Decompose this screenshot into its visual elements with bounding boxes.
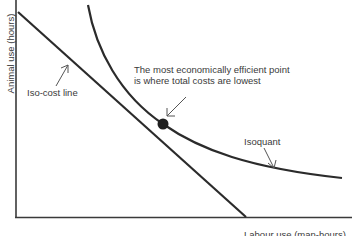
callout-line-1: The most economically efficient point: [134, 64, 290, 75]
isoquant-diagram: [0, 0, 358, 236]
isoquant-curve: [88, 5, 342, 178]
efficient-point: [158, 119, 169, 130]
iso-cost-line: [18, 12, 246, 217]
callout-arrow-icon: [167, 97, 186, 116]
callout-line-2: is where total costs are lowest: [134, 75, 290, 86]
y-axis-label: Animal use (hours): [5, 6, 16, 102]
iso-cost-label: Iso-cost line: [27, 87, 78, 98]
isoquant-label: Isoquant: [244, 136, 280, 147]
efficient-point-callout: The most economically efficient point is…: [134, 64, 290, 86]
x-axis-label: Labour use (man-hours): [244, 229, 346, 236]
iso-cost-arrow-icon: [56, 65, 68, 86]
